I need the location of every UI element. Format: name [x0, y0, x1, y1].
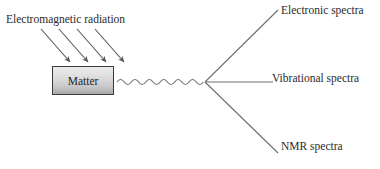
arrow-down-right-icon-1 — [41, 29, 70, 62]
incoming-radiation-arrows — [41, 29, 124, 62]
spectroscopy-diagram: Electromagnetic radiation Matter Electro… — [0, 0, 380, 169]
sine-wave-icon — [117, 80, 203, 85]
arrow-down-right-icon-3 — [77, 29, 106, 62]
fan-line-nmr — [205, 82, 278, 153]
output-label-electronic-spectra: Electronic spectra — [281, 4, 364, 17]
matter-box-label: Matter — [68, 75, 99, 87]
input-radiation-label: Electromagnetic radiation — [6, 13, 125, 26]
matter-box: Matter — [52, 66, 114, 95]
arrow-down-right-icon-2 — [59, 29, 88, 62]
output-label-nmr-spectra: NMR spectra — [281, 140, 343, 153]
arrow-down-right-icon-4 — [95, 29, 124, 62]
output-label-vibrational-spectra: Vibrational spectra — [272, 72, 359, 85]
fan-out-lines-icon — [205, 10, 278, 153]
fan-line-electronic — [205, 10, 278, 82]
